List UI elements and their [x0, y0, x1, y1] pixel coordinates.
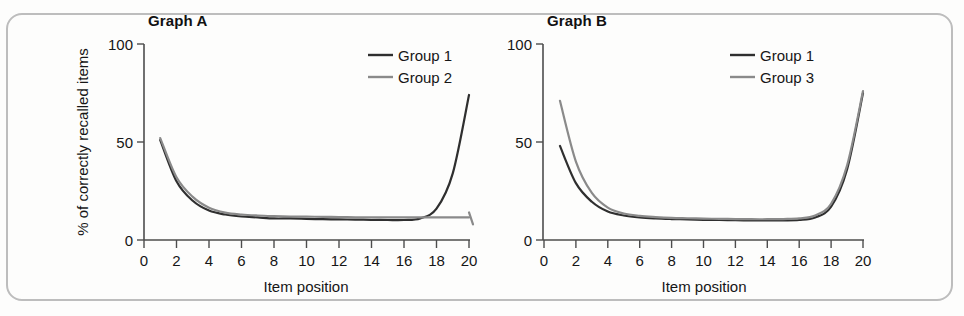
- chart-panel-graph-a: Graph A 05010002468101214161820Item posi…: [0, 0, 482, 316]
- plot-area-graph-b: 05010002468101214161820Item positionGrou…: [482, 0, 964, 316]
- y-tick-label: 100: [108, 36, 133, 53]
- x-tick-label: 6: [237, 252, 245, 269]
- figure-root: Graph A 05010002468101214161820Item posi…: [0, 0, 964, 316]
- x-tick-label: 0: [140, 252, 148, 269]
- legend-label-group-2: Group 2: [398, 69, 452, 86]
- y-tick-label: 0: [125, 232, 133, 249]
- x-tick-label: 14: [759, 252, 776, 269]
- x-tick-label: 12: [727, 252, 744, 269]
- x-axis-title: Item position: [661, 278, 746, 295]
- y-tick-label: 50: [116, 134, 133, 151]
- data-curve-group-3: [560, 91, 863, 219]
- x-tick-label: 4: [205, 252, 213, 269]
- chart-panel-graph-b: Graph B 05010002468101214161820Item posi…: [482, 0, 964, 316]
- x-tick-label: 8: [667, 252, 675, 269]
- x-tick-label: 2: [172, 252, 180, 269]
- data-curve-group-1: [560, 93, 863, 220]
- x-tick-label: 2: [572, 252, 580, 269]
- x-tick-label: 16: [396, 252, 413, 269]
- x-tick-label: 10: [695, 252, 712, 269]
- curve-end-cap-group-2: [469, 212, 473, 224]
- x-tick-label: 14: [363, 252, 380, 269]
- x-tick-label: 6: [636, 252, 644, 269]
- x-tick-label: 0: [540, 252, 548, 269]
- legend-label-group-1: Group 1: [398, 47, 452, 64]
- x-tick-label: 4: [604, 252, 612, 269]
- x-tick-label: 20: [461, 252, 478, 269]
- y-tick-label: 50: [515, 134, 532, 151]
- y-tick-label: 100: [507, 36, 532, 53]
- y-axis-title: % of correctly recalled items: [74, 48, 91, 236]
- x-tick-label: 20: [855, 252, 872, 269]
- x-tick-label: 10: [298, 252, 315, 269]
- x-axis-title: Item position: [263, 278, 348, 295]
- x-tick-label: 18: [823, 252, 840, 269]
- x-tick-label: 12: [331, 252, 348, 269]
- data-curve-group-1: [160, 95, 469, 220]
- data-curve-group-2: [160, 138, 469, 217]
- x-tick-label: 16: [791, 252, 808, 269]
- x-tick-label: 18: [428, 252, 445, 269]
- legend-label-group-1: Group 1: [760, 47, 814, 64]
- legend-label-group-3: Group 3: [760, 69, 814, 86]
- plot-area-graph-a: 05010002468101214161820Item position% of…: [0, 0, 482, 316]
- x-tick-label: 8: [270, 252, 278, 269]
- y-tick-label: 0: [524, 232, 532, 249]
